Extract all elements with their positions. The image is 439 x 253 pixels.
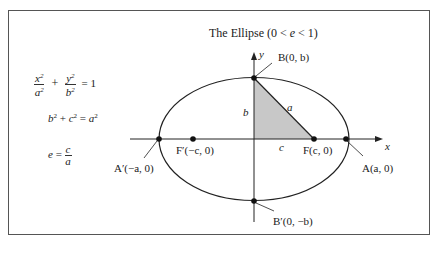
point-A-prime (156, 136, 162, 142)
label-B-prime: B′(0, −b) (273, 215, 313, 228)
point-F (311, 136, 317, 142)
label-F: F(c, 0) (303, 144, 333, 157)
leader-A (347, 141, 363, 156)
y-axis-arrow-icon (251, 52, 257, 60)
leader-B-prime (256, 203, 274, 211)
label-F-prime: F′(−c, 0) (176, 144, 214, 157)
ellipse-diagram: x y B(0, b) B′(0, −b) A(a, 0) A′(−a, 0) … (0, 0, 439, 253)
leader-B (256, 63, 272, 76)
point-F-prime (190, 136, 196, 142)
label-side-b: b (243, 106, 249, 118)
y-axis-label: y (258, 48, 264, 60)
label-A: A(a, 0) (362, 162, 393, 175)
leader-A-prime (144, 141, 157, 158)
label-B: B(0, b) (278, 51, 310, 64)
point-B-prime (251, 198, 257, 204)
point-A (343, 136, 349, 142)
point-B (251, 75, 257, 81)
x-axis-label: x (384, 140, 390, 152)
label-side-a: a (287, 101, 293, 113)
x-axis-arrow-icon (375, 136, 383, 142)
label-side-c: c (279, 141, 284, 153)
label-A-prime: A′(−a, 0) (114, 162, 154, 175)
